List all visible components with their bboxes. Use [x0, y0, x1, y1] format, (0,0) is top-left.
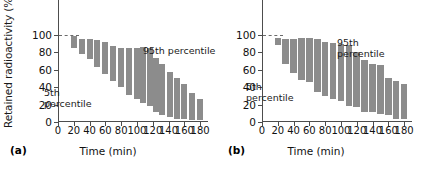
x-tick-label: 0: [55, 125, 61, 136]
bar-range: [385, 78, 392, 115]
bar-range: [102, 42, 108, 74]
bar-range: [189, 93, 195, 120]
bar-range: [306, 38, 313, 82]
x-axis-line-a: [58, 121, 208, 122]
bar-range: [153, 58, 159, 112]
bar-range: [87, 39, 93, 59]
y-tick-label: 100: [236, 29, 256, 41]
x-axis-title-a: Time (min): [79, 145, 136, 157]
x-tick-label: 80: [115, 125, 128, 136]
x-tick-label: 60: [99, 125, 112, 136]
x-tick-label: 20: [271, 125, 284, 136]
bar-range: [353, 52, 360, 107]
x-tick-label: 60: [303, 125, 316, 136]
bar-range: [134, 48, 140, 99]
ninetyfifth-percentile-label-a: 95th percentile: [143, 46, 215, 57]
bar-range: [147, 48, 153, 106]
ninetyfifth-percentile-label-b: 95th percentile: [337, 38, 385, 59]
bar-range: [314, 39, 321, 93]
panel-tag-b: (b): [228, 144, 245, 156]
bar-range: [401, 84, 408, 119]
bar-range: [377, 65, 384, 115]
y-tick-label: 80: [243, 46, 256, 58]
x-tick-label: 180: [191, 125, 210, 136]
y-axis-title-a: Retained radioactivity (%): [2, 0, 16, 128]
y-tick-label: 60: [39, 64, 52, 76]
y-axis-extension: [58, 0, 59, 22]
x-tick-label: 0: [259, 125, 265, 136]
x-tick-label: 40: [83, 125, 96, 136]
fifth-percentile-label-a: 5th percentile: [44, 88, 92, 109]
bar-range: [282, 39, 289, 64]
bar-range: [71, 36, 77, 48]
bar-range: [393, 81, 400, 119]
bar-range: [110, 46, 116, 81]
bar-range: [159, 64, 165, 115]
y-tick: [54, 52, 58, 53]
panel-a: Retained radioactivity (%) 0204060801000…: [0, 0, 216, 170]
x-tick-label: 180: [395, 125, 414, 136]
y-tick: [258, 70, 262, 71]
y-tick: [54, 70, 58, 71]
y-axis-extension: [262, 0, 263, 22]
bar-range: [369, 64, 376, 113]
y-tick: [258, 105, 262, 106]
bar-range: [197, 99, 203, 121]
bar-range: [174, 78, 180, 119]
y-tick: [258, 52, 262, 53]
fifth-percentile-label-b: 5th percentile: [246, 82, 294, 103]
x-tick-label: 20: [67, 125, 80, 136]
y-tick: [258, 35, 262, 36]
y-tick-label: 60: [243, 64, 256, 76]
x-axis-line-b: [262, 121, 412, 122]
bar-range: [275, 38, 282, 46]
panel-tag-a: (a): [10, 144, 27, 156]
panel-b: 020406080100020406080100120140160180 Tim…: [216, 0, 433, 170]
bar-range: [290, 39, 297, 74]
x-tick-label: 80: [319, 125, 332, 136]
y-tick: [54, 35, 58, 36]
bar-range: [330, 43, 337, 100]
bar-range: [94, 40, 100, 67]
bar-range: [126, 48, 132, 95]
y-tick-label: 100: [32, 29, 52, 41]
y-tick-label: 0: [45, 116, 52, 128]
bar-range: [322, 42, 329, 96]
figure-retained-radioactivity: Retained radioactivity (%) 0204060801000…: [0, 0, 433, 170]
bar-range: [79, 39, 85, 55]
bar-range: [298, 38, 305, 81]
y-tick-label: 80: [39, 46, 52, 58]
bar-range: [167, 72, 173, 116]
bar-range: [118, 48, 124, 87]
bar-range: [181, 84, 187, 120]
bar-range: [361, 60, 368, 111]
x-tick-label: 40: [287, 125, 300, 136]
x-axis-title-b: Time (min): [287, 145, 344, 157]
y-tick-label: 0: [249, 116, 256, 128]
